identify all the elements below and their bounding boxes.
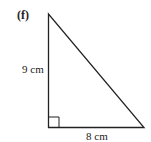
triangle-outline [49,14,145,128]
horizontal-side-label: 8 cm [86,130,108,142]
vertical-side-label: 9 cm [22,63,44,75]
right-angle-marker [49,117,60,128]
figure-label: (f) [17,9,29,21]
